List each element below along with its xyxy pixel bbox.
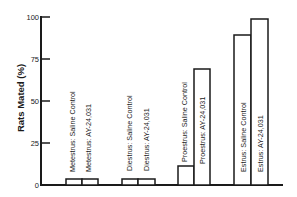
bar-label: Proestrus: AY-24,031 [198, 97, 207, 164]
bar-label: Proestrus: Saline Control [180, 82, 189, 162]
y-tick-label: 100 [26, 13, 39, 22]
bar-label: Estrus: AY-24,031 [256, 115, 265, 172]
y-axis-label: Rats Mated (%) [15, 64, 26, 132]
y-ticks [41, 17, 50, 143]
bars [66, 19, 268, 185]
bar-label: Estrus: Saline Control [239, 102, 248, 172]
y-tick-label: 25 [31, 139, 39, 148]
bar-diestrus-saline [122, 179, 138, 185]
bar-proestrus-saline [178, 166, 194, 185]
y-tick-label: 50 [31, 97, 39, 106]
bar-label: Diestrus: Saline Control [125, 95, 134, 171]
bar-label: Diestrus: AY-24,031 [142, 108, 151, 171]
bar-diestrus-ay [138, 179, 155, 185]
bar-metestrus-saline [66, 179, 82, 185]
y-tick-labels: 100 75 50 25 0 [26, 13, 39, 190]
bar-metestrus-ay [82, 179, 98, 185]
y-tick-label: 0 [35, 181, 39, 190]
bar-label: Metestrus: AY-24,031 [84, 104, 93, 172]
y-tick-label: 75 [31, 55, 39, 64]
bar-label: Metestrus: Saline Control [68, 91, 77, 172]
bar-chart: Rats Mated (%) 100 75 50 25 0 Metestrus:… [0, 0, 297, 197]
